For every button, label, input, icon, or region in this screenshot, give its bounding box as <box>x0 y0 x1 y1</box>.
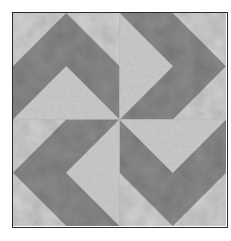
quilt-block <box>12 12 228 228</box>
quilt-pattern <box>13 13 226 226</box>
